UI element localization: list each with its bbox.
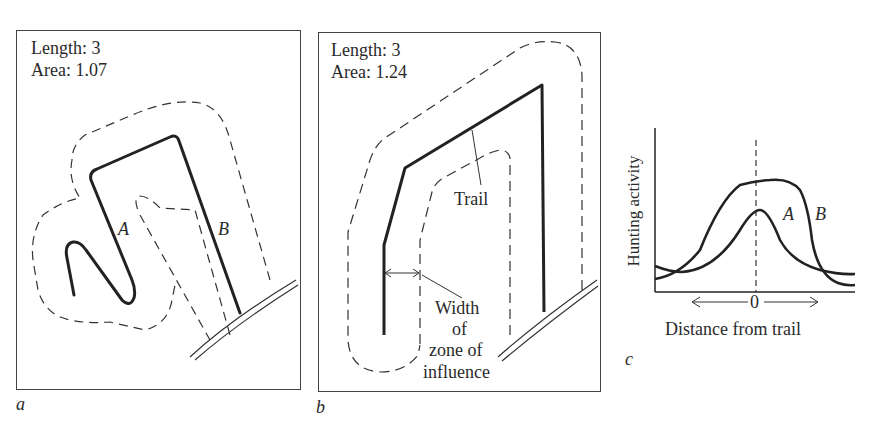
panel-b-width-line-3: zone of bbox=[429, 339, 482, 361]
panel-a-length: Length: 3 bbox=[31, 37, 101, 59]
panel-c-label-A: A bbox=[783, 203, 794, 225]
panel-b-area: Area: 1.24 bbox=[331, 61, 407, 83]
panel-c-curve-b bbox=[655, 180, 855, 286]
panel-a-area: Area: 1.07 bbox=[31, 59, 107, 81]
panel-b-width-line-2: of bbox=[452, 318, 467, 340]
panel-b-caption: b bbox=[316, 396, 325, 418]
panel-a-frame bbox=[16, 30, 301, 390]
panel-b-width-line-4: influence bbox=[423, 361, 490, 383]
panel-b-trail-label: Trail bbox=[454, 188, 488, 210]
panel-b-width-line-1: Width bbox=[435, 297, 479, 319]
panel-a-label-A: A bbox=[118, 218, 129, 240]
panel-c-xlabel: Distance from trail bbox=[665, 318, 801, 340]
panel-c-label-B: B bbox=[815, 203, 826, 225]
panel-c-zero-tick: 0 bbox=[750, 291, 759, 313]
panel-c-ylabel: Hunting activity bbox=[623, 151, 645, 271]
panel-b-length: Length: 3 bbox=[331, 39, 401, 61]
panel-a-caption: a bbox=[16, 393, 25, 415]
panel-a-label-B: B bbox=[218, 218, 229, 240]
panel-c-caption: c bbox=[625, 348, 633, 370]
